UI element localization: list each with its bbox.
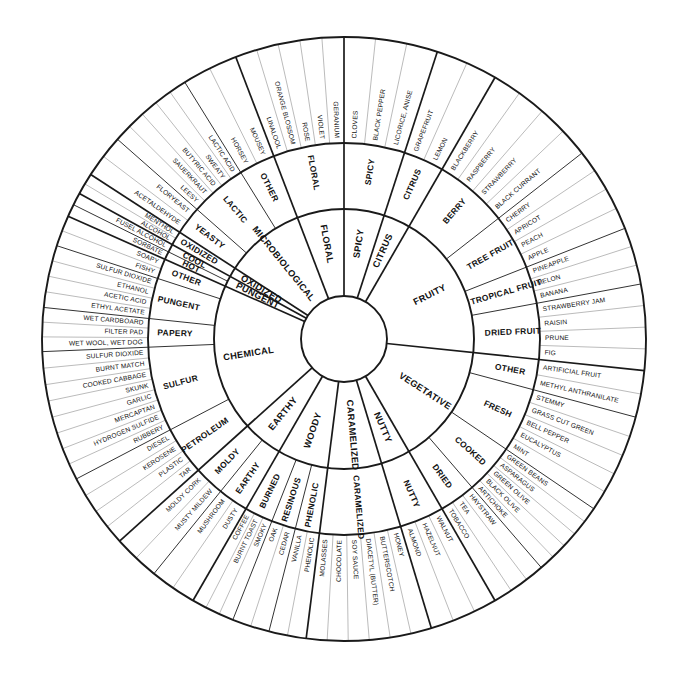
outer-ring-term: TEA xyxy=(458,500,472,515)
mid-ring-label: CARAMELIZED xyxy=(351,475,366,540)
mid-ring-label: MOLDY xyxy=(213,446,242,476)
outer-ring-term: PEACH xyxy=(520,231,544,248)
outer-ring-term: FILTER PAD xyxy=(104,327,143,335)
outer-ring-term: LEMON xyxy=(431,136,448,161)
mid-ring-label: DRIED xyxy=(430,462,454,490)
mid-ring-label: BERRY xyxy=(440,196,468,226)
sector-divider xyxy=(142,114,213,193)
mid-ring-label: TREE FRUIT xyxy=(465,237,516,272)
outer-ring-term: VIOLET xyxy=(317,115,327,140)
outer-ring-term: CLOVES xyxy=(350,110,358,138)
outer-ring-term: CHOCOLATE xyxy=(335,539,343,581)
mid-ring-label: FLORAL xyxy=(306,154,322,191)
outer-ring-term: DIACETYL (BUTTER) xyxy=(364,538,380,606)
mid-ring-label: SPICY xyxy=(363,158,377,186)
outer-ring-term: ROSE xyxy=(301,122,311,143)
inner-ring-label: WOODY xyxy=(302,411,323,450)
sector-divider xyxy=(57,400,158,433)
sector-divider xyxy=(63,410,162,449)
outer-ring-term: BLACK PEPPER xyxy=(371,88,386,141)
outer-ring-term: CEDAR xyxy=(277,531,290,556)
outer-ring-term: GRAPEFRUIT xyxy=(412,109,434,153)
sector-divider xyxy=(540,327,646,331)
outer-ring-term: LINALOOL xyxy=(265,116,283,150)
inner-ring-label: CARAMELIZED xyxy=(345,399,361,470)
mid-ring-label: FRESH xyxy=(482,398,513,420)
inner-ring-label: SPICY xyxy=(351,228,365,259)
mid-ring-label: PAPERY xyxy=(157,327,193,338)
mid-ring-label: RESINOUS xyxy=(279,476,303,523)
outer-ring-term: MOLASSES xyxy=(318,538,328,576)
mid-ring-label: COOKED xyxy=(453,434,488,467)
inner-ring-label: CITRUS xyxy=(371,232,395,269)
aroma-wheel-container: SPICYSPICYCLOVESBLACK PEPPERLICORICE, AN… xyxy=(0,0,688,677)
outer-ring-term: SULFUR DIOXIDE xyxy=(86,349,144,360)
inner-ring-label: FLORAL xyxy=(318,224,335,265)
mid-ring-label: DRIED FRUIT xyxy=(484,325,541,337)
sector-divider xyxy=(327,535,333,641)
outer-ring-term: STEMMY xyxy=(535,393,565,408)
outer-ring-term: PRUNE xyxy=(545,334,569,341)
inner-ring-label: VEGETATIVE xyxy=(397,370,453,411)
mid-ring-label: EARTHY xyxy=(233,460,262,496)
outer-ring-term: PHENOLIC xyxy=(303,537,315,573)
outer-ring-term: MELON xyxy=(536,273,561,286)
mid-ring-label: NUTTY xyxy=(401,478,422,509)
outer-ring-term: GERANIUM xyxy=(333,101,341,138)
mid-ring-label: PUNGENT xyxy=(157,294,202,313)
inner-ring-label: FRUITY xyxy=(412,282,448,307)
outer-ring-term: HAZELNUT xyxy=(421,522,442,558)
outer-ring-term: BANANA xyxy=(539,286,568,299)
inner-ring-label: CHEMICAL xyxy=(222,345,274,363)
mid-ring-label: SULFUR xyxy=(162,373,199,392)
outer-ring-term: WALNUT xyxy=(435,515,454,543)
outer-ring-term: SOY SAUCE xyxy=(351,540,360,580)
outer-ring-term: FIG xyxy=(544,349,556,357)
outer-ring-term: WET WOOL, WET DOG xyxy=(69,338,143,346)
mid-ring-label: CITRUS xyxy=(401,167,424,201)
aroma-wheel-figure: SPICYSPICYCLOVESBLACK PEPPERLICORICE, AN… xyxy=(0,0,688,677)
sector-divider xyxy=(486,131,563,204)
ring-circle xyxy=(301,296,387,382)
mid-ring-label: LACTIC xyxy=(221,194,250,225)
mid-ring-label: OTHER xyxy=(258,171,281,203)
mid-ring-label: TROPICAL FRUIT xyxy=(469,277,543,307)
sector-divider xyxy=(347,535,348,641)
inner-ring-label: NUTTY xyxy=(372,410,394,444)
outer-ring-term: STRAWBERRY JAM xyxy=(542,296,606,312)
outer-ring-term: VANILLA xyxy=(290,534,303,563)
outer-ring-term: BUTTERSCOTCH xyxy=(379,536,396,592)
mid-ring-label: OTHER xyxy=(494,361,526,376)
outer-ring-term: RAISIN xyxy=(544,318,567,327)
outer-ring-term: WET CARDBOARD xyxy=(83,314,144,326)
